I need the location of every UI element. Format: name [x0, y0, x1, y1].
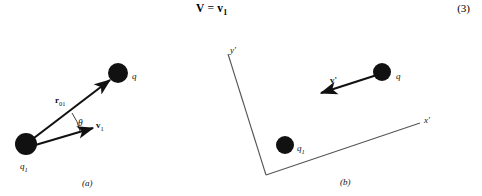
panel-b-charge-q1-label: q1: [297, 144, 305, 155]
panel-b-charge-q1-dot: [276, 136, 294, 154]
panel-a-vector-v1-subscript: 1: [101, 125, 104, 132]
panel-a-graphics: [15, 63, 128, 155]
panel-b-axis-x-prime-label: x': [424, 116, 430, 125]
panel-a-charge-q1-subscript: 1: [25, 166, 28, 173]
axis-y-prime-line: [228, 54, 266, 175]
panel-a-vector-r01-subscript: 01: [59, 100, 66, 107]
vector-v1-line: [32, 128, 93, 146]
panel-b-charge-q-dot: [373, 63, 391, 81]
panel-b-charge-q1-subscript: 1: [302, 148, 305, 155]
panel-a-charge-q-label: q: [132, 72, 137, 81]
panel-a-caption: (a): [82, 179, 93, 188]
panel-b-vector-v-prime-label: v': [330, 76, 337, 85]
panel-a-charge-q-dot: [108, 63, 128, 83]
figure-page: V=v1 (3): [0, 0, 482, 196]
panel-b-caption: (b): [340, 178, 351, 187]
panel-a-vector-v1-label: v1: [96, 121, 104, 132]
panel-b-charge-q-label: q: [396, 72, 401, 81]
panel-a-angle-theta-label: θ: [78, 119, 83, 129]
figure-container: q1 q r01 v1 θ (a) y' x' q1 q v' (b): [0, 0, 482, 196]
panel-a-charge-q1-dot: [15, 133, 37, 155]
panel-a-vector-r01-label: r01: [55, 96, 66, 107]
panel-a-charge-q-symbol: q: [132, 71, 137, 81]
panel-a-charge-q1-label: q1: [20, 162, 28, 173]
figure-svg: [0, 0, 482, 196]
panel-b-charge-q-symbol: q: [396, 71, 401, 81]
panel-b-graphics: [228, 54, 420, 175]
panel-b-axis-y-prime-label: y': [230, 46, 236, 55]
